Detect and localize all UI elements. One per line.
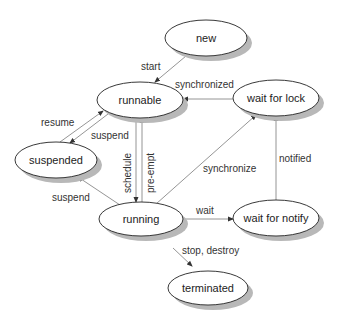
node-label: wait for lock [246,92,306,104]
label-schedule: schedule [122,153,133,193]
node-label: terminated [182,282,234,294]
label-synchronize: synchronize [203,163,257,174]
node-label: suspended [29,154,83,166]
node-label: running [123,213,160,225]
node-label: runnable [119,94,162,106]
node-wait-for-notify: wait for notify [233,200,324,241]
node-wait-for-lock: wait for lock [233,80,324,121]
label-notified: notified [279,153,311,164]
label-wait: wait [195,205,214,216]
node-label: wait for notify [243,212,309,224]
node-running: running [99,202,188,241]
label-pre-empt: pre-empt [145,153,156,193]
label-suspend-running: suspend [52,192,90,203]
node-new: new [165,20,252,61]
label-resume: resume [41,117,75,128]
node-terminated: terminated [168,271,253,310]
thread-state-diagram: start synchronized resume suspend schedu… [0,0,338,314]
label-stop-destroy: stop, destroy [182,245,239,256]
label-synchronized: synchronized [175,79,234,90]
node-suspended: suspended [15,142,102,183]
edge-synchronize [156,115,256,204]
node-label: new [196,32,216,44]
label-start: start [141,61,161,72]
label-suspend-runnable: suspend [91,130,129,141]
